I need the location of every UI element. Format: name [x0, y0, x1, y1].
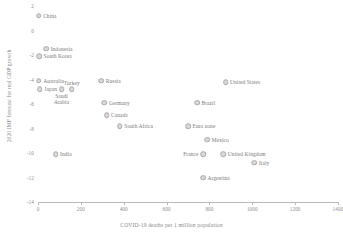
y-tick-label: -4: [29, 77, 34, 83]
data-point-label: Mexico: [212, 137, 229, 143]
x-tick-mark: [338, 202, 339, 205]
x-tick-mark: [81, 202, 82, 205]
y-tick-label: -14: [27, 199, 34, 205]
x-tick-label: 0: [37, 206, 40, 212]
data-point-label: Canada: [111, 112, 128, 118]
x-tick-label: 1200: [290, 206, 301, 212]
x-tick-mark: [167, 202, 168, 205]
x-tick-mark: [295, 202, 296, 205]
x-tick-label: 800: [205, 206, 213, 212]
scatter-chart: 0200400600800100012001400 20-2-4-6-8-10-…: [0, 0, 343, 240]
data-point[interactable]: [194, 100, 200, 106]
data-point[interactable]: [98, 78, 104, 84]
x-tick-label: 1000: [247, 206, 258, 212]
x-tick-mark: [252, 202, 253, 205]
y-tick-label: -2: [29, 52, 34, 58]
data-point-label: China: [43, 13, 56, 19]
data-point[interactable]: [37, 87, 43, 93]
x-tick-mark: [209, 202, 210, 205]
data-point-label: South Korea: [44, 53, 72, 59]
data-point-label: South Africa: [124, 123, 153, 129]
y-tick-label: -8: [29, 126, 34, 132]
data-point-label: Argentina: [208, 175, 230, 181]
y-axis-title: 2020 IMF forecast for real GDP growth: [6, 16, 12, 176]
data-point[interactable]: [53, 151, 59, 157]
data-point-label: France: [183, 151, 198, 157]
data-point-label: Brazil: [202, 100, 216, 106]
data-point[interactable]: [104, 112, 110, 118]
y-tick-label: -6: [29, 101, 34, 107]
y-tick-label: 0: [31, 28, 34, 34]
y-tick-label: -10: [27, 150, 34, 156]
data-point[interactable]: [252, 160, 258, 166]
data-point[interactable]: [59, 87, 65, 93]
data-point[interactable]: [69, 87, 75, 93]
x-tick-mark: [38, 202, 39, 205]
data-point-label: Turkey: [64, 80, 80, 86]
data-point[interactable]: [200, 151, 206, 157]
data-point-label: United Kingdom: [228, 151, 266, 157]
x-tick-label: 1400: [333, 206, 343, 212]
x-axis-title: COVID-19 deaths per 1 million population: [0, 222, 343, 228]
data-point-label: Japan: [44, 86, 57, 92]
x-tick-mark: [124, 202, 125, 205]
data-point-label: Australia: [43, 78, 64, 84]
data-point[interactable]: [223, 79, 229, 85]
data-point-label: Russia: [106, 78, 121, 84]
data-point[interactable]: [43, 46, 49, 52]
y-tick-label: -12: [27, 175, 34, 181]
data-point-label: Germany: [109, 100, 130, 106]
data-point[interactable]: [221, 151, 227, 157]
data-point[interactable]: [204, 137, 210, 143]
x-axis-line: [38, 202, 338, 203]
data-point-label: India: [60, 151, 72, 157]
data-point[interactable]: [102, 100, 108, 106]
y-tick-label: 2: [31, 3, 34, 9]
data-point[interactable]: [36, 78, 42, 84]
data-point[interactable]: [36, 13, 42, 19]
x-tick-label: 400: [120, 206, 128, 212]
data-point[interactable]: [36, 53, 42, 59]
data-point-label: SaudiArabia: [54, 93, 69, 105]
data-point[interactable]: [117, 123, 123, 129]
data-point-label: United States: [230, 79, 260, 85]
data-point-label: Italy: [259, 160, 269, 166]
data-point[interactable]: [185, 123, 191, 129]
plot-area: [38, 6, 338, 202]
x-tick-label: 600: [163, 206, 171, 212]
data-point-label: Indonesia: [51, 46, 73, 52]
data-point-label: Euro zone: [193, 123, 216, 129]
x-tick-label: 200: [77, 206, 85, 212]
data-point[interactable]: [200, 175, 206, 181]
